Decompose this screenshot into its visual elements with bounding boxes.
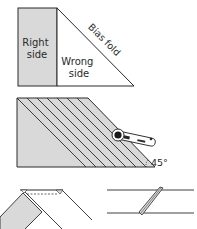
strip-edge-right (62, 190, 92, 220)
panel-cut-strips: 45° (17, 98, 168, 168)
panel-fold-bias: Right side Wrong side Bias fold (18, 8, 134, 86)
panel-joined-strip (107, 187, 194, 215)
angle-label: 45° (151, 157, 168, 168)
bias-binding-diagram: Right side Wrong side Bias fold (0, 0, 197, 229)
seam-line (141, 188, 162, 214)
lower-strip (0, 193, 42, 229)
corner-tab (56, 190, 63, 194)
panel-join-strips (0, 190, 92, 229)
